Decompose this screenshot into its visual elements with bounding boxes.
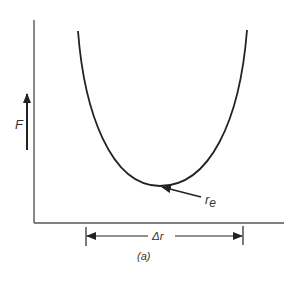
- potential-curve-diagram: F re Δr (a): [0, 0, 300, 282]
- re-label: re: [205, 192, 216, 210]
- span-label: Δr: [151, 230, 165, 242]
- re-pointer-arrow-icon: [162, 187, 201, 197]
- figure-caption: (a): [137, 250, 151, 262]
- potential-curve: [78, 30, 247, 186]
- y-axis-label: F: [15, 117, 24, 132]
